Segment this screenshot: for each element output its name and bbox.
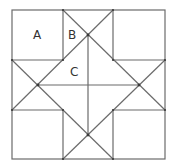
label-a: A [33, 28, 42, 42]
vertex-grid-tr [112, 9, 114, 11]
vertex-inner-br [112, 109, 114, 111]
vertex-right [138, 84, 141, 87]
vertex-left [37, 84, 40, 87]
vertex-inner-bl [62, 109, 64, 111]
vertex-grid-mr [164, 59, 166, 61]
quilt-diagram: A B C [0, 0, 179, 166]
vertex-grid-bmr [112, 158, 114, 160]
vertex-grid-br [164, 109, 166, 111]
label-c: C [70, 65, 78, 79]
vertex-bottom [87, 134, 90, 137]
vertex-inner-tr [112, 59, 114, 61]
vertex-grid-tl [62, 9, 64, 11]
diagram-canvas: A B C [0, 0, 179, 166]
vertex-grid-ml [11, 59, 13, 61]
vertex-inner-tl [62, 59, 64, 61]
label-b: B [68, 28, 76, 42]
vertex-top [87, 34, 90, 37]
vertex-grid-bml [62, 158, 64, 160]
vertex-grid-bl [11, 109, 13, 111]
